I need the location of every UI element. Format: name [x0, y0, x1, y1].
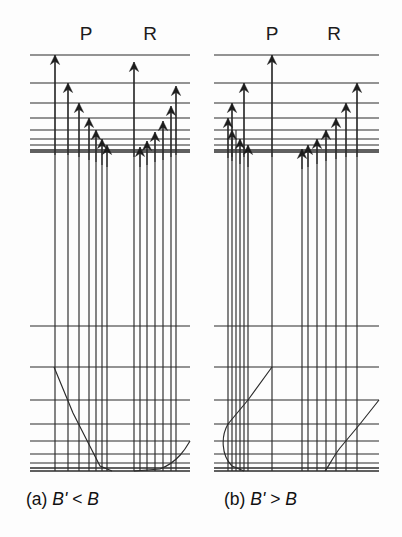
panel-caption: (b) B' > B — [224, 489, 297, 509]
branch-label-p: P — [266, 23, 279, 44]
figure-root: PRPR (a) B' < B(b) B' > B — [0, 0, 402, 537]
caption-b-prime: B' — [250, 489, 266, 509]
branch-label-r: R — [143, 23, 157, 44]
energy-level-diagram: PRPR (a) B' < B(b) B' > B — [0, 0, 402, 537]
branch-label-r: R — [327, 23, 341, 44]
panel-caption: (a) B' < B — [26, 489, 99, 509]
caption-b: B — [285, 489, 297, 509]
figure-background — [0, 0, 402, 537]
caption-relation: < — [67, 489, 87, 509]
caption-prefix: (b) — [224, 489, 250, 509]
caption-relation: > — [265, 489, 285, 509]
caption-prefix: (a) — [26, 489, 52, 509]
caption-b: B — [87, 489, 99, 509]
branch-label-p: P — [80, 23, 93, 44]
caption-b-prime: B' — [52, 489, 68, 509]
